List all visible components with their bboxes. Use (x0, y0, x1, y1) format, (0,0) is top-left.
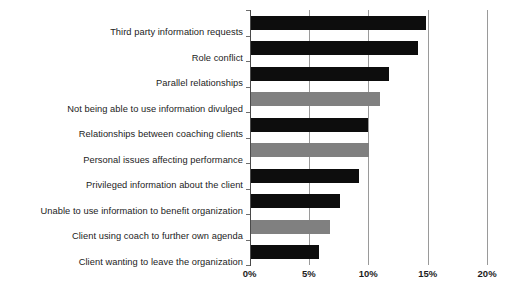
category-label: Unable to use information to benefit org… (0, 206, 243, 217)
category-tick (246, 112, 250, 113)
category-tick (246, 10, 250, 11)
category-label: Not being able to use information divulg… (0, 104, 243, 115)
bar (251, 245, 320, 259)
category-tick (246, 87, 250, 88)
category-tick (246, 61, 250, 62)
bar (251, 169, 359, 183)
category-label: Privileged information about the client (0, 180, 243, 191)
gridline-20 (487, 10, 488, 265)
category-label: Parallel relationships (0, 78, 243, 89)
plot-area (250, 10, 488, 265)
category-axis-labels: Third party information requests Role co… (0, 10, 243, 265)
x-tick-label: 15% (418, 268, 437, 280)
x-tick-label: 20% (478, 268, 497, 280)
category-label: Third party information requests (0, 27, 243, 38)
category-tick (246, 189, 250, 190)
category-label: Role conflict (0, 53, 243, 64)
x-tick-label: 10% (359, 268, 378, 280)
value-axis-tick-labels: 0% 5% 10% 15% 20% (0, 268, 515, 286)
category-label: Client wanting to leave the organization (0, 257, 243, 268)
category-tick (246, 265, 250, 266)
x-tick-label: 0% (243, 268, 257, 280)
bar (251, 67, 390, 81)
bar (251, 92, 380, 106)
bar (251, 41, 419, 55)
bar-chart: Third party information requests Role co… (0, 0, 515, 296)
category-tick (246, 214, 250, 215)
category-tick (246, 240, 250, 241)
category-tick (246, 163, 250, 164)
bar (251, 118, 369, 132)
bar (251, 16, 427, 30)
category-label: Relationships between coaching clients (0, 129, 243, 140)
category-tick (246, 36, 250, 37)
category-label: Personal issues affecting performance (0, 155, 243, 166)
category-tick (246, 138, 250, 139)
bar (251, 220, 331, 234)
x-tick-label: 5% (302, 268, 316, 280)
bar (251, 194, 340, 208)
bar (251, 143, 370, 157)
category-label: Client using coach to further own agenda (0, 231, 243, 242)
gridline-15 (428, 10, 429, 265)
